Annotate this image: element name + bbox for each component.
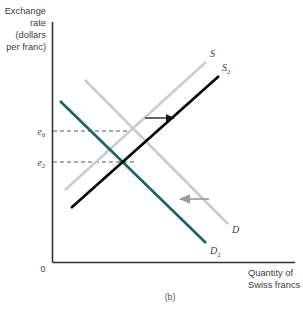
y-axis-label: Exchange rate (dollars per franc) (5, 6, 47, 52)
y-axis-label-line-2: (dollars (16, 30, 47, 40)
exchange-rate-supply-demand-figure: Exchange rate (dollars per franc) 0 e0 e… (0, 0, 303, 310)
origin-label: 0 (40, 264, 45, 274)
supply-curve-original-label: S (210, 48, 215, 59)
demand-curve-new (60, 101, 206, 243)
supply-curve-new (71, 76, 219, 208)
demand-curve-new-label: D2 (209, 245, 221, 258)
y-tick-label-e0: e0 (37, 127, 45, 139)
y-axis-label-line-3: per franc) (6, 42, 46, 52)
x-axis-label-line-0: Quantity of (248, 268, 293, 278)
supply-curve-new-label: S2 (222, 62, 230, 75)
y-axis-label-line-0: Exchange (5, 6, 46, 16)
y-axis-label-line-1: rate (30, 18, 46, 28)
figure-caption: (b) (165, 292, 176, 302)
y-tick-label-e2: e2 (37, 158, 45, 170)
x-axis-label: Quantity of Swiss francs (248, 268, 301, 290)
demand-curve-original-label: D (231, 224, 240, 235)
x-axis-label-line-1: Swiss francs (248, 280, 301, 290)
